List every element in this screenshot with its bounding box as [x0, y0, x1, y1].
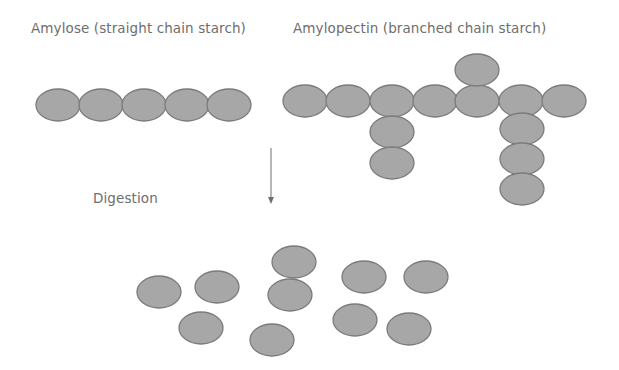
- glucose-unit: [179, 312, 223, 344]
- amylose-unit: [207, 89, 251, 121]
- amylopectin-unit: [283, 85, 327, 117]
- amylopectin-unit: [500, 173, 544, 205]
- amylose-unit: [122, 89, 166, 121]
- digestion-arrow-icon: [268, 148, 274, 204]
- amylopectin-unit: [370, 116, 414, 148]
- glucose-unit: [342, 261, 386, 293]
- amylopectin-chain: [283, 54, 586, 205]
- amylose-unit: [36, 89, 80, 121]
- glucose-unit: [268, 279, 312, 311]
- amylopectin-unit: [542, 85, 586, 117]
- starch-diagram: [0, 0, 619, 370]
- glucose-unit: [195, 271, 239, 303]
- glucose-units: [137, 246, 448, 356]
- glucose-unit: [137, 276, 181, 308]
- amylose-unit: [79, 89, 123, 121]
- glucose-unit: [333, 304, 377, 336]
- amylose-unit: [165, 89, 209, 121]
- amylopectin-unit: [499, 85, 543, 117]
- glucose-unit: [272, 246, 316, 278]
- glucose-unit: [387, 313, 431, 345]
- glucose-unit: [404, 261, 448, 293]
- glucose-unit: [250, 324, 294, 356]
- amylopectin-unit: [370, 85, 414, 117]
- amylopectin-unit: [370, 147, 414, 179]
- amylopectin-unit: [326, 85, 370, 117]
- amylopectin-unit: [455, 85, 499, 117]
- amylopectin-unit: [455, 54, 499, 86]
- amylopectin-unit: [500, 113, 544, 145]
- amylose-chain: [36, 89, 251, 121]
- amylopectin-unit: [500, 143, 544, 175]
- amylopectin-unit: [413, 85, 457, 117]
